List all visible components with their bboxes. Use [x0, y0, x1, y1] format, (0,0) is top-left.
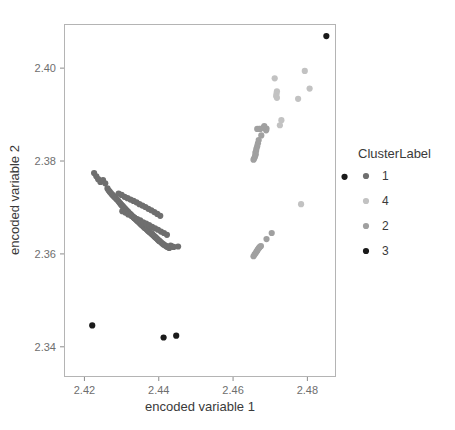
x-tick-label: 2.48: [297, 384, 318, 396]
legend-swatch-2[interactable]: [363, 223, 369, 229]
legend-label-2[interactable]: 2: [382, 219, 389, 233]
legend-label-3[interactable]: 3: [382, 244, 389, 258]
y-axis-ticks: 2.342.362.382.40: [35, 62, 64, 353]
data-point: [277, 122, 283, 128]
data-point: [160, 334, 166, 340]
plot-canvas: 2.422.442.462.48 2.342.362.382.40 Cluste…: [0, 0, 455, 430]
data-point: [263, 236, 269, 242]
scatter-plot-figure: 2.422.442.462.48 2.342.362.382.40 Cluste…: [0, 0, 455, 430]
plot-panel: [65, 25, 336, 377]
data-point: [116, 190, 122, 196]
x-axis-title: encoded variable 1: [145, 399, 255, 414]
y-tick-label: 2.38: [35, 155, 56, 167]
data-point: [175, 243, 181, 249]
legend-title: ClusterLabel: [358, 146, 431, 161]
x-tick-label: 2.44: [148, 384, 169, 396]
legend-swatch-1[interactable]: [363, 173, 369, 179]
x-axis-ticks: 2.422.442.462.48: [74, 377, 318, 396]
y-tick-label: 2.36: [35, 248, 56, 260]
data-point: [258, 243, 264, 249]
y-axis-title: encoded variable 2: [7, 145, 22, 255]
data-point: [261, 123, 267, 129]
legend-swatch-3[interactable]: [363, 248, 369, 254]
legend-swatch-4[interactable]: [363, 198, 369, 204]
data-point: [298, 201, 304, 207]
data-point: [164, 232, 170, 238]
data-point: [307, 85, 313, 91]
legend-label-4[interactable]: 4: [382, 194, 389, 208]
x-tick-label: 2.46: [222, 384, 243, 396]
data-point: [341, 174, 347, 180]
data-point: [302, 68, 308, 74]
y-tick-label: 2.40: [35, 62, 56, 74]
data-point: [323, 33, 329, 39]
data-point: [89, 322, 95, 328]
data-point: [272, 75, 278, 81]
x-tick-label: 2.42: [74, 384, 95, 396]
data-point: [258, 132, 264, 138]
data-point: [173, 333, 179, 339]
data-point: [269, 230, 275, 236]
legend: ClusterLabel1423: [358, 146, 431, 258]
data-point: [274, 95, 280, 101]
legend-label-1[interactable]: 1: [382, 169, 389, 183]
y-tick-label: 2.34: [35, 341, 56, 353]
data-point: [295, 96, 301, 102]
